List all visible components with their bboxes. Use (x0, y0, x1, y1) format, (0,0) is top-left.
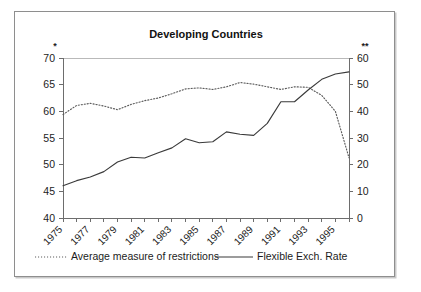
x-axis-year-label: 1987 (204, 223, 228, 247)
left-axis-tick-label: 40 (43, 212, 55, 224)
left-axis-tick-label: 45 (43, 185, 55, 197)
right-axis-tick-label: 0 (357, 212, 363, 224)
x-axis-year-label: 1975 (41, 223, 65, 247)
chart-canvas: Developing Countries40455055606570*01020… (15, 12, 394, 276)
left-axis-tick-label: 50 (43, 158, 55, 170)
right-axis-marker: ** (361, 41, 369, 51)
x-axis-year-label: 1983 (150, 223, 174, 247)
right-axis-tick-label: 10 (357, 185, 369, 197)
right-axis-tick-label: 40 (357, 105, 369, 117)
x-axis-year-label: 1985 (177, 223, 201, 247)
left-axis-marker: * (53, 41, 57, 51)
right-axis-tick-label: 50 (357, 78, 369, 90)
right-axis-tick-label: 20 (357, 158, 369, 170)
left-axis-tick-label: 70 (43, 52, 55, 64)
x-axis-year-label: 1979 (95, 223, 119, 247)
x-axis-year-label: 1989 (232, 223, 256, 247)
legend-label-restrictions: Average measure of restrictions (71, 250, 219, 262)
x-axis-year-label: 1993 (286, 223, 310, 247)
chart-title: Developing Countries (149, 28, 263, 40)
legend-label-flexible-rate: Flexible Exch. Rate (257, 250, 348, 262)
right-axis-tick-label: 60 (357, 52, 369, 64)
x-axis-year-label: 1991 (259, 223, 283, 247)
figure-frame: Developing Countries40455055606570*01020… (14, 11, 395, 277)
series-line-restrictions (63, 83, 349, 158)
right-axis-tick-label: 30 (357, 132, 369, 144)
x-axis-year-label: 1995 (313, 223, 337, 247)
chart-figure: Developing Countries40455055606570*01020… (0, 0, 421, 292)
left-axis-tick-label: 55 (43, 132, 55, 144)
x-axis-year-label: 1981 (123, 223, 147, 247)
left-axis-tick-label: 60 (43, 105, 55, 117)
left-axis-tick-label: 65 (43, 78, 55, 90)
x-axis-year-label: 1977 (68, 223, 92, 247)
